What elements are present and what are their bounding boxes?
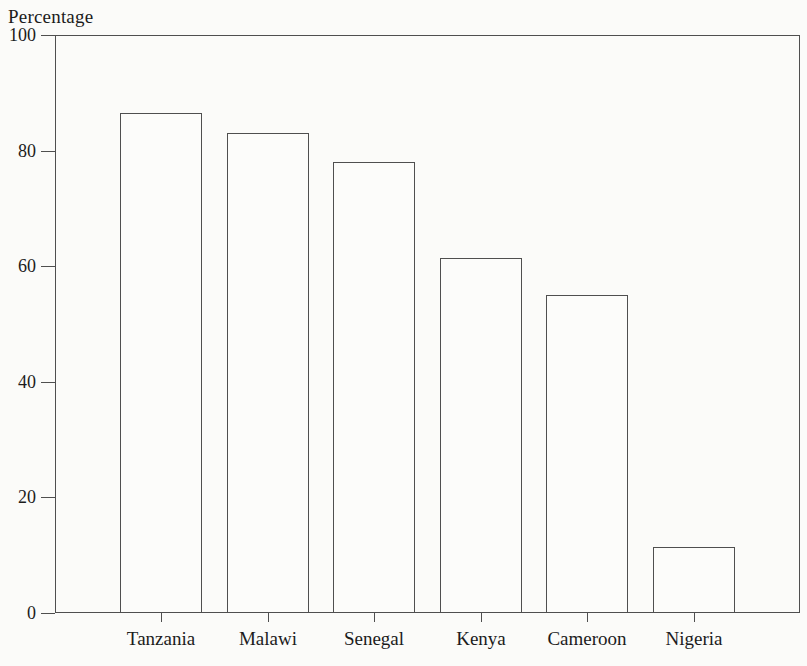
x-axis-tick	[268, 613, 269, 622]
y-axis-tick	[41, 35, 55, 36]
y-axis-tick-label: 0	[0, 603, 36, 623]
y-axis-tick-label: 100	[0, 25, 36, 45]
x-axis-label-tanzania: Tanzania	[127, 628, 195, 650]
bar-malawi	[227, 133, 309, 613]
bar-kenya	[440, 258, 522, 613]
x-axis-tick	[694, 613, 695, 622]
y-axis-tick	[41, 613, 55, 614]
y-axis-tick-label: 40	[0, 372, 36, 392]
y-axis-tick	[41, 266, 55, 267]
x-axis-tick	[161, 613, 162, 622]
x-axis-label-senegal: Senegal	[344, 628, 404, 650]
x-axis-label-cameroon: Cameroon	[547, 628, 626, 650]
x-axis-tick	[587, 613, 588, 622]
bar-senegal	[333, 162, 415, 613]
y-axis-tick	[41, 382, 55, 383]
y-axis-tick-label: 60	[0, 256, 36, 276]
bar-nigeria	[653, 547, 735, 613]
x-axis-tick	[481, 613, 482, 622]
x-axis-tick	[374, 613, 375, 622]
x-axis-label-malawi: Malawi	[239, 628, 297, 650]
bar-chart-figure: Percentage 020406080100 TanzaniaMalawiSe…	[0, 0, 807, 666]
x-axis-label-kenya: Kenya	[456, 628, 506, 650]
x-axis-label-nigeria: Nigeria	[666, 628, 723, 650]
y-axis-tick-label: 80	[0, 141, 36, 161]
bar-cameroon	[546, 295, 628, 613]
y-axis-tick-label: 20	[0, 487, 36, 507]
y-axis-tick	[41, 497, 55, 498]
y-axis-tick	[41, 151, 55, 152]
bar-tanzania	[120, 113, 202, 613]
